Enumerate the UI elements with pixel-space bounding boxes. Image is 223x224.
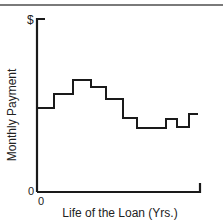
x-axis-title: Life of the Loan (Yrs.)	[62, 206, 177, 220]
y-axis-zero-label: 0	[28, 185, 34, 197]
monthly-payment-step-line	[37, 80, 198, 128]
y-axis-title: Monthly Payment	[5, 69, 19, 162]
x-axis-zero-label: 0	[38, 195, 44, 207]
y-axis-top-label: $	[27, 13, 34, 27]
x-axis	[37, 183, 200, 192]
y-axis	[37, 19, 45, 192]
